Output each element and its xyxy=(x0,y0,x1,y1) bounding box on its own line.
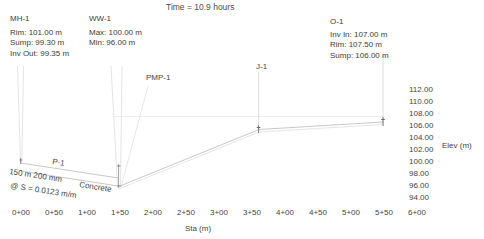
structure-o-1-graphic xyxy=(381,55,385,126)
structure-ww-1-graphic xyxy=(111,66,122,188)
structure-label-o-1: O-1 Inv In: 107.00 m Rim: 107.50 m Sump:… xyxy=(330,17,389,61)
force-main-ww1-j1-graphic xyxy=(119,130,259,190)
y-tick-0: 112.00 xyxy=(409,85,433,94)
y-tick-6: 100.00 xyxy=(409,157,433,166)
x-tick-1: 0+50 xyxy=(37,208,71,217)
x-tick-9: 4+50 xyxy=(301,208,335,217)
structure-detail-ww-1-min: Min: 96.00 m xyxy=(89,38,142,48)
x-tick-3: 1+50 xyxy=(103,208,137,217)
x-tick-11: 5+50 xyxy=(367,208,401,217)
x-tick-10: 5+00 xyxy=(334,208,368,217)
x-tick-12: 6+00 xyxy=(400,208,434,217)
profile-plot-window: Time = 10.9 hours xyxy=(0,0,484,239)
structure-detail-mh-1-invout: Inv Out: 99.35 m xyxy=(10,49,69,59)
profile-graphics xyxy=(0,0,484,239)
x-tick-2: 1+00 xyxy=(70,208,104,217)
pipe-label-name: P-1 xyxy=(52,157,66,168)
y-tick-9: 94.00 xyxy=(409,193,429,202)
structure-name-o-1: O-1 xyxy=(330,17,389,27)
structure-name-j-1: J-1 xyxy=(256,62,267,71)
y-tick-8: 96.00 xyxy=(409,181,429,190)
structure-label-mh-1: MH-1 Rim: 101.00 m Sump: 99.30 m Inv Out… xyxy=(10,14,69,59)
y-tick-3: 106.00 xyxy=(409,121,433,130)
y-tick-7: 98.00 xyxy=(409,169,429,178)
y-tick-1: 110.00 xyxy=(409,97,433,106)
structure-mh-1-graphic xyxy=(18,66,24,164)
structure-pmp-1-graphic xyxy=(122,86,149,185)
structure-detail-o-1-invin: Inv In: 107.00 m xyxy=(330,30,389,40)
structure-detail-o-1-sump: Sump: 106.00 m xyxy=(330,51,389,61)
force-main-j1-o1-graphic xyxy=(259,122,383,132)
structure-j-1-graphic xyxy=(257,72,261,133)
y-tick-5: 102.00 xyxy=(409,145,433,154)
structure-detail-mh-1-sump: Sump: 99.30 m xyxy=(10,38,69,48)
y-tick-2: 108.00 xyxy=(409,109,433,118)
x-tick-7: 3+50 xyxy=(235,208,269,217)
structure-detail-ww-1-max: Max: 100.00 m xyxy=(89,28,142,38)
structure-name-ww-1: WW-1 xyxy=(89,14,142,24)
structure-name-mh-1: MH-1 xyxy=(10,14,69,24)
structure-detail-o-1-rim: Rim: 107.50 m xyxy=(330,40,389,50)
x-tick-6: 3+00 xyxy=(202,208,236,217)
y-axis-title: Elev (m) xyxy=(442,141,472,150)
y-tick-4: 104.00 xyxy=(409,133,433,142)
x-tick-4: 2+00 xyxy=(136,208,170,217)
structure-detail-mh-1-rim: Rim: 101.00 m xyxy=(10,28,69,38)
x-axis-title: Sta (m) xyxy=(168,224,228,233)
x-tick-5: 2+50 xyxy=(169,208,203,217)
structure-name-pmp-1: PMP-1 xyxy=(146,73,170,82)
structure-label-ww-1: WW-1 Max: 100.00 m Min: 96.00 m xyxy=(89,14,142,49)
x-tick-8: 4+00 xyxy=(268,208,302,217)
x-tick-0: 0+00 xyxy=(4,208,38,217)
